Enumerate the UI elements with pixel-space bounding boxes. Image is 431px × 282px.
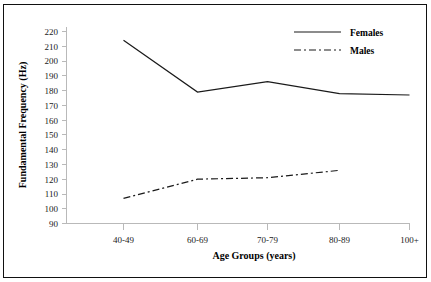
chart-frame: 220 210 200 190 180 170 160 150 140 130 …	[3, 4, 427, 278]
x-axis-title: Age Groups (years)	[212, 250, 295, 262]
y-tick-label: 210	[45, 42, 59, 52]
y-tick-label: 120	[45, 175, 59, 185]
line-chart-plot: 220 210 200 190 180 170 160 150 140 130 …	[4, 5, 426, 277]
y-tick-label: 170	[45, 101, 59, 111]
chart-legend: Females Males	[294, 28, 384, 56]
y-tick-label: 220	[45, 27, 59, 37]
x-tick-label: 40-49	[113, 235, 134, 245]
y-tick-label: 110	[45, 189, 59, 199]
legend-label-males: Males	[350, 46, 375, 56]
y-tick-marks	[62, 32, 67, 224]
y-tick-label: 140	[45, 145, 59, 155]
y-axis-title: Fundamental Frequency (Hz)	[17, 62, 29, 188]
y-tick-label: 100	[45, 204, 59, 214]
y-tick-label: 130	[45, 160, 59, 170]
x-tick-label: 100+	[400, 235, 419, 245]
legend-label-females: Females	[350, 28, 384, 38]
series-line-males	[124, 170, 340, 198]
y-tick-label: 160	[45, 116, 59, 126]
y-tick-label: 200	[45, 56, 59, 66]
chart-figure: 220 210 200 190 180 170 160 150 140 130 …	[0, 0, 431, 282]
x-tick-label: 70-79	[257, 235, 278, 245]
x-tick-marks	[124, 224, 410, 231]
x-tick-label: 80-89	[329, 235, 350, 245]
y-tick-label: 180	[45, 86, 59, 96]
x-tick-label: 60-69	[187, 235, 208, 245]
y-tick-label: 190	[45, 71, 59, 81]
y-tick-label: 90	[49, 219, 59, 229]
y-tick-label: 150	[45, 130, 59, 140]
